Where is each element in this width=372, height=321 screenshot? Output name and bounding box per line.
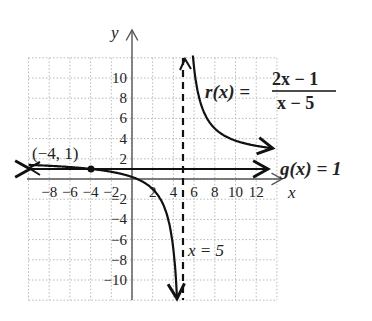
y-tick-label: 6	[120, 110, 128, 126]
y-tick-label: −8	[111, 252, 127, 268]
y-tick-label: 10	[112, 70, 127, 86]
y-tick-label: −4	[111, 211, 127, 227]
x-axis-label: x	[287, 183, 296, 202]
y-tick-label: −6	[111, 232, 127, 248]
y-tick-label: 2	[120, 151, 128, 167]
y-tick-label: 4	[120, 131, 128, 147]
r-numerator: 2x − 1	[272, 69, 318, 89]
y-tick-label: −2	[111, 191, 127, 207]
r-function-label: r(x) =	[205, 81, 250, 103]
x-tick-label: 6	[190, 184, 198, 200]
y-axis-label: y	[109, 23, 119, 42]
x-tick-label: −8	[41, 184, 57, 200]
g-function-label: g(x) = 1	[279, 158, 341, 180]
x-tick-label: 4	[170, 184, 178, 200]
asymptote-label: x = 5	[187, 241, 224, 260]
x-tick-label: −4	[83, 184, 99, 200]
x-tick-label: 12	[249, 184, 264, 200]
y-tick-label: −10	[104, 272, 127, 288]
r-right-branch-arrow	[180, 59, 191, 70]
point-label: (−4, 1)	[32, 144, 78, 163]
y-tick-label: 8	[120, 90, 128, 106]
point-marker	[88, 166, 95, 173]
r-denominator: x − 5	[277, 93, 314, 113]
x-tick-label: 8	[211, 184, 219, 200]
graph: −8−6−4−224681012108642−2−4−6−8−10 y x (−…	[0, 0, 372, 321]
x-tick-label: −6	[62, 184, 78, 200]
x-tick-label: 10	[228, 184, 243, 200]
